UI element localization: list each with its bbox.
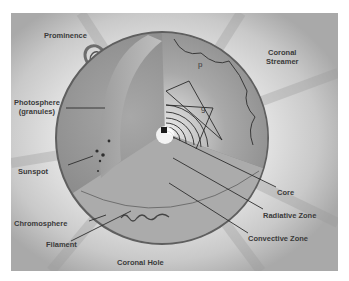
label-radiative-zone: Radiative Zone: [263, 212, 316, 221]
label-coronal-streamer: Coronal Streamer: [266, 49, 299, 66]
core-center: [161, 127, 167, 133]
label-core: Core: [277, 189, 294, 198]
label-photosphere: Photosphere (granules): [14, 99, 60, 116]
label-coronal-hole: Coronal Hole: [117, 259, 164, 268]
label-g-mode: g: [201, 105, 205, 114]
label-chromosphere: Chromosphere: [14, 220, 67, 229]
label-prominence: Prominence: [44, 32, 87, 41]
label-sunspot: Sunspot: [18, 168, 48, 177]
label-coronal-streamer-line2: Streamer: [266, 58, 299, 67]
label-filament: Filament: [46, 241, 77, 250]
label-photosphere-line2: (granules): [14, 108, 60, 117]
label-convective-zone: Convective Zone: [248, 235, 308, 244]
label-p-mode: p: [198, 61, 202, 70]
sun-diagram: Prominence Coronal Streamer Photosphere …: [11, 13, 338, 271]
